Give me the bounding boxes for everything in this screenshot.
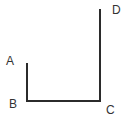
label-c: C <box>106 103 115 117</box>
polyline-diagram: A B C D <box>0 0 124 118</box>
label-d: D <box>112 3 121 17</box>
label-a: A <box>6 54 14 68</box>
label-b: B <box>9 97 17 111</box>
